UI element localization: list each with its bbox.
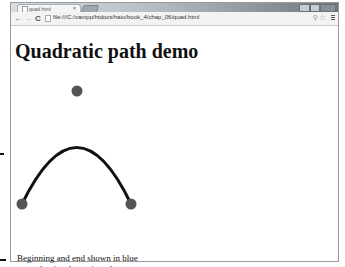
end-point bbox=[126, 199, 137, 210]
window-controls bbox=[299, 4, 336, 10]
quadratic-canvas bbox=[11, 26, 338, 261]
browser-toolbar: ← → C file:///C:/xampp/htdocs/haio/book_… bbox=[11, 12, 338, 26]
control-point bbox=[72, 86, 83, 97]
url-text[interactable]: file:///C:/xampp/htdocs/haio/book_4/chap… bbox=[53, 14, 199, 20]
zoom-icon[interactable]: ⚲ bbox=[313, 14, 318, 22]
maximize-button[interactable] bbox=[310, 4, 320, 12]
caption: Beginning and end shown in blue control … bbox=[17, 253, 138, 267]
start-point bbox=[17, 199, 28, 210]
minimize-button[interactable] bbox=[299, 4, 310, 12]
forward-button[interactable]: → bbox=[24, 14, 32, 23]
page-icon bbox=[45, 15, 51, 22]
close-window-button[interactable] bbox=[320, 4, 336, 12]
quadratic-curve bbox=[22, 148, 131, 205]
address-bar[interactable]: file:///C:/xampp/htdocs/haio/book_4/chap… bbox=[45, 14, 307, 23]
margin-mark-top bbox=[0, 153, 4, 155]
margin-mark-bottom bbox=[0, 259, 6, 261]
page-content: Quadratic path demo Beginning and end sh… bbox=[11, 26, 338, 261]
title-bar: quad.html × bbox=[11, 3, 338, 12]
caption-line-1: Beginning and end shown in blue bbox=[17, 253, 138, 264]
menu-icon[interactable] bbox=[331, 15, 335, 21]
reload-button[interactable]: C bbox=[35, 14, 41, 23]
browser-window: quad.html × ← → C file:///C:/xampp/htdoc… bbox=[10, 2, 339, 262]
bookmark-star-icon[interactable]: ☆ bbox=[319, 13, 326, 22]
back-button[interactable]: ← bbox=[14, 14, 22, 23]
tab-close-icon[interactable]: × bbox=[73, 5, 76, 11]
